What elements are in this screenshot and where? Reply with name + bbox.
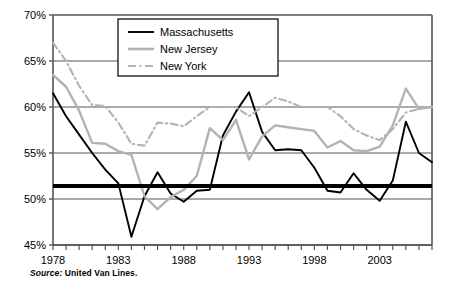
chart-container: 45%50%55%60%65%70% 197819831988199319982… [0,0,453,293]
source-text: United Van Lines. [65,268,138,278]
legend-label-new-york: New York [160,60,207,72]
legend-label-new-jersey: New Jersey [160,43,218,55]
y-axis-tick-label: 65% [24,55,46,67]
chart-legend: MassachusettsNew JerseyNew York [118,19,278,76]
series-line-massachusetts [53,92,432,236]
line-chart: 45%50%55%60%65%70% 197819831988199319982… [0,0,453,293]
y-axis-tick-label: 45% [24,239,46,251]
x-axis-tick-label: 1978 [41,254,65,266]
x-axis-tick-label: 1988 [171,254,195,266]
source-label: Source: [30,268,62,278]
series-line-new-jersey [53,75,432,209]
y-axis-tick-label: 55% [24,147,46,159]
x-axis-tick-label: 1983 [106,254,130,266]
x-axis-tick-label: 1998 [302,254,326,266]
y-axis-tick-label: 50% [24,193,46,205]
y-axis-labels: 45%50%55%60%65%70% [24,9,46,251]
x-axis-tick-label: 2003 [367,254,391,266]
chart-svg: 45%50%55%60%65%70% 197819831988199319982… [0,0,453,293]
x-axis-tick-label: 1993 [237,254,261,266]
y-axis-tick-label: 60% [24,101,46,113]
source-note: Source: United Van Lines. [30,268,137,278]
x-axis-labels: 197819831988199319982003 [41,254,392,266]
legend-label-massachusetts: Massachusetts [160,26,234,38]
y-axis-tick-label: 70% [24,9,46,21]
